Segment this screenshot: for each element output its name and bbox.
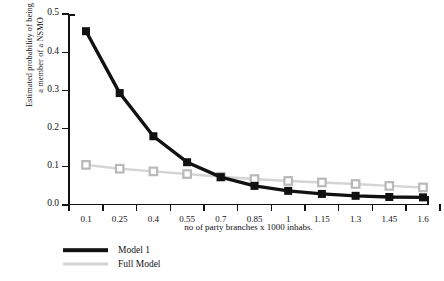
- y-axis-title-line-1: Estimated probability of being: [24, 3, 35, 107]
- legend-item-model-1: Model 1: [63, 243, 263, 257]
- series-line: [86, 31, 423, 197]
- legend-swatch-full-model: [63, 257, 108, 271]
- legend-item-full-model: Full Model: [63, 257, 263, 271]
- y-axis-tick-label: 0.3: [47, 84, 59, 94]
- data-point-marker: [150, 168, 158, 176]
- data-point-marker: [419, 193, 427, 201]
- series-layer: [68, 14, 429, 205]
- data-point-marker: [352, 192, 360, 200]
- data-point-marker: [385, 193, 393, 201]
- data-point-marker: [149, 132, 157, 140]
- data-point-marker: [217, 173, 225, 181]
- data-point-marker: [284, 177, 292, 185]
- data-point-marker: [116, 165, 124, 173]
- plot-area: 0.00.10.20.30.40.5 0.10.250.40.550.70.85…: [68, 14, 429, 205]
- legend-swatch-model-1: [63, 243, 108, 257]
- data-point-marker: [251, 175, 259, 183]
- x-axis-title: no of party branches x 1000 inhabs.: [68, 222, 429, 232]
- data-point-marker: [284, 187, 292, 195]
- data-point-marker: [116, 89, 124, 97]
- y-axis-tick-label: 0.4: [47, 46, 59, 56]
- x-axis-tick: [439, 204, 440, 211]
- data-point-marker: [352, 180, 360, 188]
- chart-legend: Model 1 Full Model: [63, 243, 263, 271]
- data-point-marker: [318, 179, 326, 187]
- data-point-marker: [251, 182, 259, 190]
- legend-label-full-model: Full Model: [108, 259, 161, 269]
- y-axis-tick-label: 0.5: [47, 7, 59, 17]
- data-point-marker: [386, 182, 394, 190]
- data-point-marker: [318, 190, 326, 198]
- y-axis-tick-label: 0.0: [47, 198, 59, 208]
- data-point-marker: [183, 170, 191, 178]
- data-point-marker: [419, 184, 427, 192]
- chart-figure: Estimated probability of being a member …: [0, 0, 444, 281]
- data-point-marker: [82, 27, 90, 35]
- y-axis-tick-label: 0.1: [47, 160, 59, 170]
- y-axis-title-line-2: a member of a NSMO: [35, 17, 46, 93]
- data-point-marker: [183, 158, 191, 166]
- data-point-marker: [82, 161, 90, 169]
- y-axis-tick-label: 0.2: [47, 122, 59, 132]
- legend-label-model-1: Model 1: [108, 245, 150, 255]
